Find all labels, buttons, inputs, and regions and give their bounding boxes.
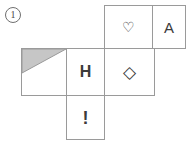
- letter-h-icon: H: [80, 64, 92, 80]
- diamond-outline-icon: ◇: [123, 64, 136, 81]
- shaded-face-cell: [21, 48, 67, 96]
- cube-net-diagram: ♡ A H ◇ !: [0, 0, 193, 146]
- exclamation-icon: !: [83, 109, 89, 127]
- letter-a-icon: A: [164, 20, 174, 35]
- exclamation-face-cell: !: [66, 95, 105, 140]
- diamond-face-cell: ◇: [104, 48, 155, 96]
- letter-h-face-cell: H: [66, 48, 105, 96]
- figure-root: 1 ♡ A H ◇ !: [0, 0, 193, 146]
- letter-a-face-cell: A: [152, 5, 186, 49]
- heart-face-cell: ♡: [104, 5, 153, 49]
- heart-outline-icon: ♡: [122, 20, 135, 34]
